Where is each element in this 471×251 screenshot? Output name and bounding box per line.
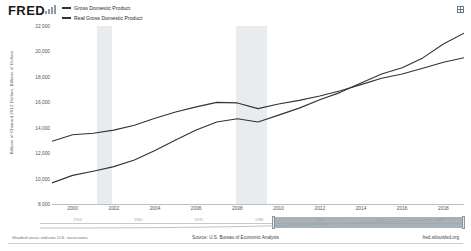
y-tick-label: 16,000 — [35, 100, 50, 105]
y-tick-label: 10,000 — [35, 176, 50, 181]
chart-legend: Gross Domestic Product Real Gross Domest… — [62, 3, 142, 23]
x-tick-label: 2016 — [397, 206, 408, 211]
range-handle-left[interactable] — [272, 216, 275, 229]
range-tick-label: 2010 — [437, 218, 445, 222]
x-tick-label: 2012 — [314, 206, 325, 211]
x-tick-label: 2004 — [150, 206, 161, 211]
x-axis-line — [52, 204, 464, 205]
range-handle-right[interactable] — [462, 216, 465, 229]
legend-item-gdp[interactable]: Gross Domestic Product — [62, 3, 142, 12]
series-line — [52, 58, 464, 142]
x-tick-label: 2008 — [232, 206, 243, 211]
legend-swatch-gdp — [62, 7, 71, 9]
y-tick-label: 20,000 — [35, 49, 50, 54]
plot-container: Billions of Chained 2012 Dollars, Billio… — [0, 22, 471, 212]
x-tick-label: 2006 — [191, 206, 202, 211]
y-tick-label: 22,000 — [35, 24, 50, 29]
legend-swatch-real-gdp — [62, 17, 71, 19]
legend-label-real-gdp: Real Gross Domestic Product — [74, 15, 142, 21]
date-range-slider[interactable]: 1950196019701980199020002010 — [40, 216, 464, 230]
range-tick-label: 1960 — [134, 218, 142, 222]
chart-footer: Shaded areas indicate U.S. recessions So… — [0, 235, 471, 245]
y-tick-label: 14,000 — [35, 125, 50, 130]
x-tick-label: 2018 — [438, 206, 449, 211]
fred-bars-icon — [45, 5, 56, 14]
legend-item-real-gdp[interactable]: Real Gross Domestic Product — [62, 13, 142, 22]
chart-header: FRED Gross Domestic Product Real Gross D… — [0, 0, 471, 24]
y-axis-title: Billions of Chained 2012 Dollars, Billio… — [9, 18, 14, 188]
y-tick-label: 8,000 — [38, 202, 50, 207]
range-tick-label: 1950 — [73, 218, 81, 222]
fred-url-label[interactable]: fred.stlouisfed.org — [422, 235, 459, 240]
range-selection[interactable] — [273, 217, 464, 228]
legend-label-gdp: Gross Domestic Product — [74, 5, 130, 11]
range-tick-label: 2000 — [376, 218, 384, 222]
series-lines — [52, 26, 464, 204]
x-tick-label: 2010 — [273, 206, 284, 211]
x-tick-label: 2000 — [67, 206, 78, 211]
x-tick-label: 2014 — [356, 206, 367, 211]
range-tick-label: 1970 — [194, 218, 202, 222]
x-tick-label: 2002 — [108, 206, 119, 211]
range-tick-label: 1990 — [316, 218, 324, 222]
y-tick-label: 12,000 — [35, 151, 50, 156]
expand-icon[interactable] — [457, 6, 464, 13]
plot-area — [52, 26, 464, 204]
fred-chart-widget: FRED Gross Domestic Product Real Gross D… — [0, 0, 471, 251]
y-tick-label: 18,000 — [35, 74, 50, 79]
range-tick-label: 1980 — [255, 218, 263, 222]
y-axis-ticks: 8,00010,00012,00014,00016,00018,00020,00… — [20, 22, 50, 207]
data-source-label: Source: U.S. Bureau of Economic Analysis — [0, 235, 471, 240]
fred-logo: FRED — [8, 4, 45, 18]
